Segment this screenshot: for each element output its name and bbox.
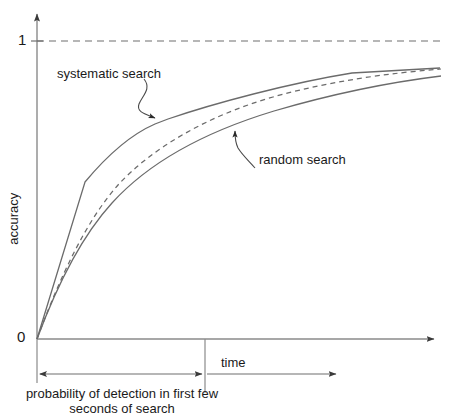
y-axis-title: accuracy (6, 184, 21, 254)
annotation-random-search: random search (259, 152, 346, 167)
series-random-search (37, 76, 441, 339)
x-axis-title: time (221, 355, 246, 370)
annotation-systematic-search: systematic search (57, 66, 161, 81)
y-axis-tick-label-1: 1 (18, 31, 26, 49)
figure-container: 1 0 accuracy systematic search random se… (0, 0, 453, 419)
y-axis-tick-label-0: 0 (17, 328, 25, 346)
random-search-leader (235, 131, 255, 168)
systematic-search-leader (138, 79, 155, 118)
series-average (37, 69, 441, 339)
annotation-probability-of-detection: probability of detection in first few se… (22, 386, 222, 417)
